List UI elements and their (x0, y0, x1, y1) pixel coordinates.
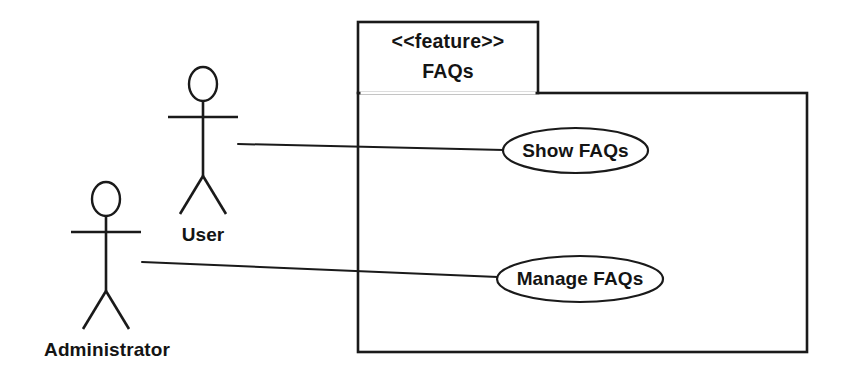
actor-user-head (189, 67, 217, 101)
actor-user-leg-left (180, 176, 203, 214)
actor-user-leg-right (203, 176, 226, 214)
use-case-show-faqs-label: Show FAQs (522, 140, 628, 161)
actor-administrator-head (92, 182, 120, 216)
package-name-label: FAQs (422, 60, 474, 82)
actor-administrator-leg-left (83, 291, 106, 329)
uml-diagram-svg: <<feature>> FAQs Show FAQs Manage FAQs U… (0, 0, 846, 379)
package-tab-body-joint (361, 92, 536, 95)
use-case-show-faqs[interactable]: Show FAQs (503, 128, 648, 173)
package-stereotype-label: <<feature>> (392, 30, 505, 52)
actor-user-label: User (182, 224, 225, 245)
actor-user[interactable]: User (168, 67, 238, 245)
actor-administrator-leg-right (106, 291, 129, 329)
use-case-manage-faqs-label: Manage FAQs (517, 268, 644, 289)
actor-administrator-label: Administrator (44, 339, 170, 360)
use-case-diagram-canvas: <<feature>> FAQs Show FAQs Manage FAQs U… (0, 0, 846, 379)
actor-administrator[interactable]: Administrator (44, 182, 170, 360)
use-case-manage-faqs[interactable]: Manage FAQs (497, 256, 663, 302)
